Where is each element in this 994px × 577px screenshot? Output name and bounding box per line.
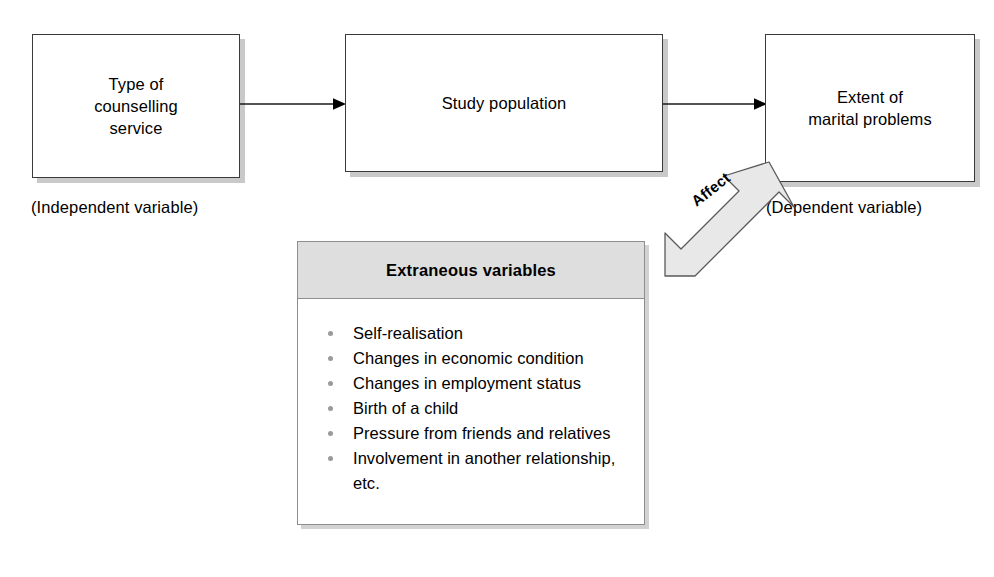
list-item-continuation: etc. (353, 471, 644, 496)
list-item-label: Birth of a child (353, 399, 458, 417)
list-item-label: Changes in economic condition (353, 349, 584, 367)
list-item-label: Pressure from friends and relatives (353, 424, 611, 442)
diagram-canvas: Type of counselling service (Independent… (0, 0, 994, 577)
bullet-dot-icon (328, 381, 333, 386)
list-item: Changes in economic condition (324, 346, 644, 371)
list-item-label: Involvement in another relationship, (353, 449, 615, 467)
bullet-dot-icon (328, 456, 333, 461)
connector-population-to-dependent (663, 95, 767, 113)
node-label-dependent: Extent of marital problems (808, 86, 932, 131)
list-item-label: Changes in employment status (353, 374, 581, 392)
list-item: Self-realisation (324, 321, 644, 346)
bullet-dot-icon (328, 331, 333, 336)
node-label-population: Study population (442, 92, 567, 114)
extraneous-variables-header: Extraneous variables (298, 242, 644, 299)
node-box-independent-variable: Type of counselling service (32, 34, 240, 178)
list-item: Changes in employment status (324, 371, 644, 396)
arrow-right-icon (240, 95, 346, 113)
bullet-dot-icon (328, 406, 333, 411)
caption-independent-variable: (Independent variable) (31, 198, 198, 217)
list-item: Pressure from friends and relatives (324, 421, 644, 446)
node-label-independent: Type of counselling service (94, 73, 178, 140)
arrow-right-icon (663, 95, 767, 113)
bullet-dot-icon (328, 431, 333, 436)
extraneous-variables-list: Self-realisation Changes in economic con… (298, 299, 644, 497)
node-box-dependent-variable: Extent of marital problems (765, 34, 975, 182)
connector-independent-to-population (240, 95, 346, 113)
extraneous-variables-panel: Extraneous variables Self-realisation Ch… (297, 241, 645, 525)
list-item: Involvement in another relationship, etc… (324, 446, 644, 496)
bullet-dot-icon (328, 356, 333, 361)
node-box-study-population: Study population (345, 34, 663, 172)
list-item: Birth of a child (324, 396, 644, 421)
list-item-label: Self-realisation (353, 324, 463, 342)
extraneous-variables-title: Extraneous variables (386, 261, 556, 280)
